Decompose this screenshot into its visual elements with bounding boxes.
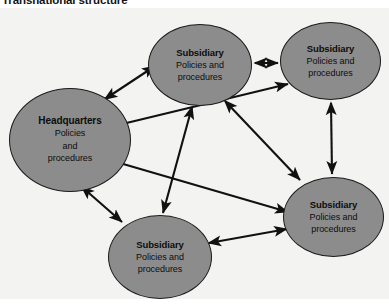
node-headquarters[interactable]: Headquarters Policies and procedures [9,88,131,192]
node-subsidiary-top-line-1: Policies and [176,59,224,72]
node-subsidiary-bottom-line-2: procedures [138,263,183,276]
node-subsidiary-right[interactable]: Subsidiary Policies and procedures [283,177,384,257]
node-subsidiary-top-heading: Subsidiary [176,47,224,59]
node-subsidiary-bottom-line-1: Policies and [136,251,184,264]
node-subsidiary-top-right-line-2: procedures [308,67,353,80]
node-headquarters-heading: Headquarters [38,115,101,127]
node-headquarters-line-2: and [63,140,78,153]
connector-subtop-to-subright [225,101,300,180]
connector-subbottom-to-subright [209,229,287,243]
node-headquarters-line-3: procedures [48,152,93,165]
node-subsidiary-top-right-heading: Subsidiary [307,43,355,55]
node-subsidiary-top[interactable]: Subsidiary Policies and procedures [148,24,252,106]
node-subsidiary-right-heading: Subsidiary [310,199,358,211]
node-subsidiary-right-line-2: procedures [311,223,356,236]
node-subsidiary-top-right[interactable]: Subsidiary Policies and procedures [280,22,381,100]
connector-hq-to-subtop [105,66,155,99]
node-subsidiary-top-line-2: procedures [178,71,223,84]
connector-subtopright-to-subright [331,103,332,174]
connector-subtop-to-subbottom [163,107,192,213]
node-subsidiary-bottom[interactable]: Subsidiary Policies and procedures [108,215,212,299]
node-headquarters-line-1: Policies [55,127,86,140]
node-subsidiary-bottom-heading: Subsidiary [136,239,184,251]
node-subsidiary-right-line-1: Policies and [310,211,358,224]
page-title: Transnational structure [2,0,128,6]
diagram-page: Transnational structure [0,0,389,305]
node-subsidiary-top-right-line-1: Policies and [307,55,355,68]
connector-hq-to-subbottom [82,187,122,222]
